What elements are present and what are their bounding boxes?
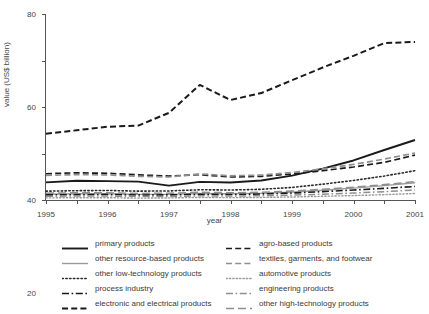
legend-swatch-icon xyxy=(226,269,252,278)
x-tick-mark: 1999 xyxy=(169,200,170,204)
x-tick-mark: 1997 xyxy=(108,200,109,204)
legend-swatch-icon xyxy=(62,239,88,248)
legend-item[interactable]: process industry xyxy=(62,281,226,296)
legend-item[interactable]: engineering products xyxy=(226,281,422,296)
x-tick-mark: 2007 xyxy=(415,200,416,204)
legend-item[interactable]: other low-technology products xyxy=(62,266,226,281)
legend-item[interactable]: automotive products xyxy=(226,266,422,281)
x-axis-title: year xyxy=(0,216,429,225)
legend-swatch-icon xyxy=(226,299,252,308)
legend-item[interactable]: other resource-based products xyxy=(62,251,226,266)
x-tick-mark: 2005 xyxy=(354,200,355,204)
legend-item[interactable]: textiles, garments, and footwear xyxy=(226,251,422,266)
x-tick-mark: 2004 xyxy=(323,200,324,204)
x-tick-mark: 1996 xyxy=(77,200,78,204)
y-tick-label: 40 xyxy=(27,196,36,205)
legend-swatch-icon xyxy=(226,239,252,248)
legend-label: textiles, garments, and footwear xyxy=(259,254,372,263)
legend-swatch-icon xyxy=(62,269,88,278)
series-lines xyxy=(46,14,415,200)
y-tick-label: 60 xyxy=(27,103,36,112)
legend-swatch-icon xyxy=(62,254,88,263)
legend-item[interactable]: electronic and electrical products xyxy=(62,296,226,311)
y-tick-label: 80 xyxy=(27,10,36,19)
legend-label: process industry xyxy=(95,284,153,293)
plot-area: 020406080 199519961997199819992000200120… xyxy=(46,14,415,200)
legend-label: engineering products xyxy=(259,284,334,293)
y-axis-title: value (US$ billion) xyxy=(2,42,11,107)
x-tick-mark: 1998 xyxy=(138,200,139,204)
legend-item[interactable]: primary products xyxy=(62,236,226,251)
legend-label: other resource-based products xyxy=(95,254,204,263)
legend-swatch-icon xyxy=(62,299,88,308)
series-line xyxy=(46,42,415,134)
x-tick-mark: 2006 xyxy=(384,200,385,204)
x-tick-mark: 2001 xyxy=(231,200,232,204)
legend-item[interactable]: other high-technology products xyxy=(226,296,422,311)
legend-swatch-icon xyxy=(226,284,252,293)
legend-label: automotive products xyxy=(259,269,331,278)
x-tick-mark: 1995 xyxy=(46,200,47,204)
legend-label: electronic and electrical products xyxy=(95,299,212,308)
chart-legend: primary productsagro-based productsother… xyxy=(62,236,422,311)
x-tick-mark: 2002 xyxy=(261,200,262,204)
legend-label: primary products xyxy=(95,239,155,248)
x-tick-mark: 2003 xyxy=(292,200,293,204)
chart-figure: value (US$ billion) 020406080 1995199619… xyxy=(0,0,429,314)
x-tick-mark: 2000 xyxy=(200,200,201,204)
y-tick-label: 20 xyxy=(27,289,36,298)
legend-label: agro-based products xyxy=(259,239,332,248)
legend-swatch-icon xyxy=(226,254,252,263)
legend-label: other high-technology products xyxy=(259,299,369,308)
legend-label: other low-technology products xyxy=(95,269,202,278)
legend-item[interactable]: agro-based products xyxy=(226,236,422,251)
legend-swatch-icon xyxy=(62,284,88,293)
